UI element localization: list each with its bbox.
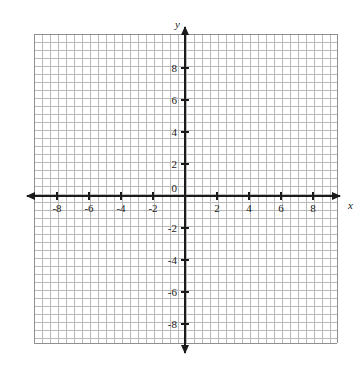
y-axis-label: y	[174, 18, 180, 30]
coordinate-grid-svg: -8-6-4-224688642-2-4-6-8 0 x y	[0, 0, 362, 375]
plot-background	[0, 0, 362, 375]
y-tick-label: -2	[168, 222, 177, 234]
y-tick-label: -4	[168, 254, 178, 266]
x-tick-label: -6	[84, 202, 94, 214]
x-tick-label: 4	[246, 202, 252, 214]
y-tick-label: 6	[172, 94, 178, 106]
x-tick-label: -2	[148, 202, 157, 214]
x-tick-label: 2	[214, 202, 220, 214]
y-tick-label: 4	[172, 126, 178, 138]
coordinate-plane: -8-6-4-224688642-2-4-6-8 0 x y	[0, 0, 362, 375]
x-tick-label: -4	[116, 202, 126, 214]
x-axis-label: x	[347, 199, 353, 211]
origin-label: 0	[172, 182, 178, 194]
x-tick-label: -8	[52, 202, 62, 214]
y-tick-label: -8	[168, 318, 178, 330]
y-tick-label: 2	[172, 158, 178, 170]
y-tick-label: 8	[172, 62, 178, 74]
x-tick-label: 6	[278, 202, 284, 214]
y-tick-label: -6	[168, 286, 178, 298]
x-tick-label: 8	[310, 202, 316, 214]
